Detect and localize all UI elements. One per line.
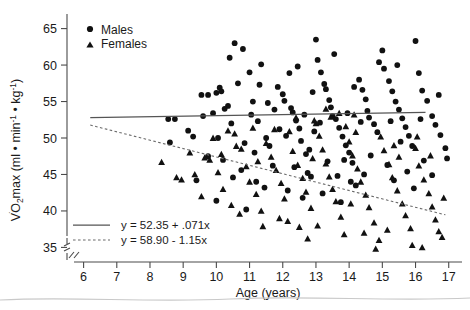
data-point-female <box>215 169 222 175</box>
data-point-female <box>284 218 291 224</box>
data-point-female <box>432 216 439 222</box>
x-tick-label: 14 <box>342 270 356 284</box>
data-point-male <box>438 132 444 138</box>
data-point-male <box>366 115 372 121</box>
data-point-male <box>250 99 256 105</box>
data-point-male <box>262 185 268 191</box>
data-point-male <box>398 139 404 145</box>
data-point-male <box>242 140 248 146</box>
data-point-male <box>298 138 304 144</box>
data-point-female <box>314 222 321 228</box>
data-point-male <box>286 70 292 76</box>
y-tick-label: 55 <box>43 95 57 109</box>
data-point-male <box>285 188 291 194</box>
plot-svg: 35404550556065 67891011121314151617 V̇O2… <box>0 0 470 310</box>
data-point-male <box>185 128 191 134</box>
y-tick-label: 45 <box>43 168 57 182</box>
data-point-female <box>191 171 198 177</box>
data-point-male <box>368 153 374 159</box>
data-point-female <box>351 111 358 117</box>
y-title-units-mid: • kg <box>9 90 23 115</box>
data-point-male <box>172 116 178 122</box>
data-point-male <box>306 147 312 153</box>
data-point-female <box>342 123 349 129</box>
data-point-male <box>252 150 258 156</box>
data-point-male <box>228 121 234 127</box>
data-point-male <box>288 105 294 111</box>
data-point-male <box>424 98 430 104</box>
legend-triangle-icon <box>86 42 93 48</box>
data-point-male <box>350 160 356 166</box>
data-point-male <box>394 62 400 68</box>
svg-text:V̇O2max (ml • min-1 • kg-1): V̇O2max (ml • min-1 • kg-1) <box>8 79 25 221</box>
x-tick-label: 16 <box>409 270 423 284</box>
data-point-male <box>389 88 395 94</box>
data-point-male <box>361 172 367 178</box>
data-point-male <box>331 51 337 57</box>
data-point-male <box>255 118 261 124</box>
x-tick-label: 12 <box>276 270 290 284</box>
data-point-male <box>315 57 321 63</box>
x-axis-ticks: 67891011121314151617 <box>80 262 456 284</box>
data-point-female <box>372 245 379 251</box>
data-point-male <box>280 91 286 97</box>
legend-label-males: Males <box>101 23 133 37</box>
data-point-female <box>289 148 296 154</box>
legend-label-females: Females <box>101 37 147 51</box>
data-point-female <box>311 117 318 123</box>
data-point-male <box>227 55 233 61</box>
data-point-male <box>238 167 244 173</box>
data-point-male <box>353 183 359 189</box>
data-point-female <box>415 162 422 168</box>
data-point-male <box>386 78 392 84</box>
data-point-female <box>218 151 225 157</box>
data-point-female <box>268 154 275 160</box>
data-point-male <box>404 169 410 175</box>
data-point-female <box>336 110 343 116</box>
data-point-male <box>443 145 449 151</box>
data-point-male <box>240 46 246 52</box>
data-point-female <box>246 178 253 184</box>
data-point-male <box>194 177 200 183</box>
data-point-male <box>243 207 249 213</box>
y-title-units-open: (ml • min <box>9 122 23 174</box>
data-point-female <box>225 127 232 133</box>
data-point-male <box>320 191 326 197</box>
scatter-plot-figure: 35404550556065 67891011121314151617 V̇O2… <box>0 0 470 310</box>
x-tick-label: 6 <box>80 270 87 284</box>
equation-females: y = 58.90 - 1.15x <box>121 234 207 246</box>
data-point-female <box>407 225 414 231</box>
y-tick-label: 35 <box>43 241 57 255</box>
data-point-male <box>300 195 306 201</box>
data-point-male <box>403 124 409 130</box>
data-point-female <box>276 215 283 221</box>
data-point-male <box>374 129 380 135</box>
x-tick-label: 15 <box>375 270 389 284</box>
data-point-male <box>213 198 219 204</box>
data-point-female <box>346 138 353 144</box>
data-point-male <box>360 87 366 93</box>
data-point-male <box>295 64 301 70</box>
data-point-male <box>167 139 173 145</box>
data-point-female <box>435 228 442 234</box>
y-axis-title: V̇O2max (ml • min-1 • kg-1) <box>8 79 25 221</box>
data-point-male <box>340 134 346 140</box>
data-point-male <box>436 92 442 98</box>
y-axis-ticks: 35404550556065 <box>43 22 67 255</box>
data-point-male <box>418 116 424 122</box>
data-point-female <box>427 152 434 158</box>
data-point-female <box>304 235 311 241</box>
x-tick-label: 9 <box>180 270 187 284</box>
data-point-male <box>379 48 385 54</box>
data-point-female <box>361 229 368 235</box>
data-point-male <box>421 158 427 164</box>
males-regression-line <box>90 112 425 117</box>
data-point-male <box>406 133 412 139</box>
data-point-female <box>440 194 447 200</box>
data-point-female <box>309 155 316 161</box>
data-point-male <box>411 185 417 191</box>
data-point-male <box>258 61 264 67</box>
data-point-female <box>158 159 165 165</box>
data-point-male <box>348 179 354 185</box>
x-tick-label: 11 <box>243 270 256 284</box>
